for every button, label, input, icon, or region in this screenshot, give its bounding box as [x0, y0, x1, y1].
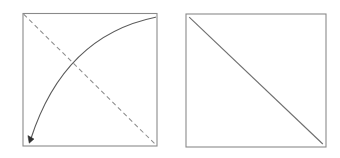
right-panel — [186, 14, 326, 147]
figure-canvas — [0, 0, 340, 158]
figure-root — [0, 0, 340, 158]
left-panel — [23, 14, 157, 147]
